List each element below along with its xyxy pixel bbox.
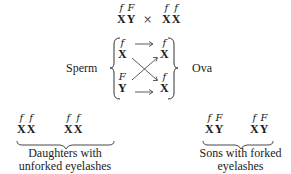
chromosome: X <box>118 48 127 60</box>
son-genotype-2: f X F Y <box>250 113 268 135</box>
daughter1-chrom-2: f X <box>27 113 36 135</box>
sons-label-line2: eyelashes <box>180 160 291 173</box>
chromosome: X <box>160 82 169 94</box>
chromosome: X <box>205 123 214 135</box>
daughter-genotype-2: f X f X <box>64 113 82 135</box>
chromosome: Y <box>215 123 224 135</box>
son-genotype-1: f X F Y <box>205 113 223 135</box>
son2-chrom-2: F Y <box>260 113 269 135</box>
daughter2-chrom-1: f X <box>64 113 73 135</box>
sperm-y: F Y <box>118 72 127 94</box>
chromosome: X <box>250 123 259 135</box>
sons-label: Sons with forked eyelashes <box>180 147 291 173</box>
chromosome: X <box>160 48 169 60</box>
chromosome: X <box>64 123 73 135</box>
son1-chrom-2: F Y <box>215 113 224 135</box>
daughters-label-line2: unforked eyelashes <box>0 160 130 173</box>
chromosome: Y <box>118 82 127 94</box>
daughters-label: Daughters with unforked eyelashes <box>0 147 130 173</box>
ovum-1: f X <box>160 38 169 60</box>
daughter-genotype-1: f X f X <box>17 113 35 135</box>
chromosome: Y <box>260 123 269 135</box>
daughter2-chrom-2: f X <box>74 113 83 135</box>
ovum-2: f X <box>160 72 169 94</box>
chromosome: X <box>17 123 26 135</box>
daughter1-chrom-1: f X <box>17 113 26 135</box>
sperm-x: f X <box>118 38 127 60</box>
chromosome: X <box>27 123 36 135</box>
son2-chrom-1: f X <box>250 113 259 135</box>
son1-chrom-1: f X <box>205 113 214 135</box>
chromosome: X <box>74 123 83 135</box>
